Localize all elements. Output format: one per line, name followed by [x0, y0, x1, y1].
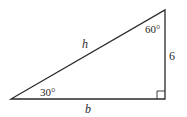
triangle-diagram: h b 6 30° 60°	[0, 0, 187, 117]
angle-30-label: 30°	[40, 86, 55, 98]
triangle-outline	[11, 10, 165, 99]
hypotenuse-label: h	[82, 37, 88, 51]
base-label: b	[85, 102, 91, 116]
height-label: 6	[169, 49, 175, 63]
right-angle-marker	[157, 91, 165, 99]
angle-60-label: 60°	[145, 23, 160, 35]
